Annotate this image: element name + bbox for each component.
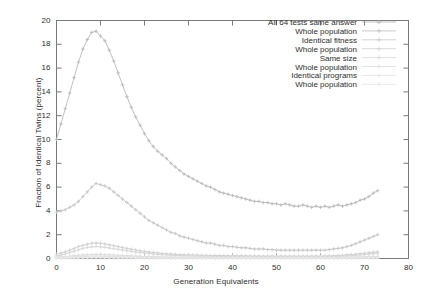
series-point-marker <box>94 245 98 249</box>
series-point-marker <box>350 202 354 206</box>
series-point-marker <box>257 247 261 251</box>
series-point-marker <box>235 245 239 249</box>
legend-label: Identical programs <box>187 71 357 80</box>
series-point-marker <box>248 247 252 251</box>
series-point-marker <box>235 195 239 199</box>
series-point-marker <box>323 248 327 252</box>
series-point-marker <box>81 47 85 51</box>
series-point-marker <box>328 248 332 252</box>
series-point-marker <box>275 248 279 252</box>
series-point-marker <box>59 122 63 126</box>
series-point-marker <box>64 208 68 212</box>
series-point-marker <box>134 250 138 254</box>
series-point-marker <box>72 249 76 253</box>
series-point-marker <box>86 246 90 250</box>
series-point-marker <box>292 248 296 252</box>
legend-label: Same size <box>187 54 357 63</box>
series-point-marker <box>209 185 213 189</box>
x-tick-label: 10 <box>88 263 114 272</box>
series-point-marker <box>310 248 314 252</box>
series-point-marker <box>270 248 274 252</box>
series-point-marker <box>213 188 217 192</box>
series-point-marker <box>332 247 336 251</box>
series-point-marker <box>354 201 358 205</box>
series-point-marker <box>134 115 138 119</box>
x-tick-label: 40 <box>220 263 246 272</box>
series-point-marker <box>222 191 226 195</box>
series-point-marker <box>345 203 349 207</box>
series-point-marker <box>314 248 318 252</box>
series-point-marker <box>138 123 142 127</box>
series-point-marker <box>275 202 279 206</box>
series-point-marker <box>152 221 156 225</box>
series-point-marker <box>77 60 81 64</box>
series-point-marker <box>376 233 380 237</box>
series-point-marker <box>323 204 327 208</box>
series-point-marker <box>121 248 125 252</box>
legend-label: Whole population <box>187 63 357 72</box>
series-point-marker <box>262 201 266 205</box>
x-tick-label: 70 <box>352 263 378 272</box>
series-point-marker <box>288 248 292 252</box>
series-point-marker <box>169 231 173 235</box>
series-point-marker <box>376 189 380 193</box>
series-point-marker <box>341 204 345 208</box>
series-point-marker <box>165 228 169 232</box>
series-point-marker <box>68 251 72 255</box>
series-point-marker <box>266 248 270 252</box>
series-point-marker <box>108 48 112 52</box>
series-point-marker <box>367 236 371 240</box>
series-point-marker <box>372 235 376 239</box>
series-point-marker <box>178 234 182 238</box>
series-point-marker <box>336 203 340 207</box>
series-point-marker <box>314 204 318 208</box>
series-point-marker <box>284 202 288 206</box>
series-point-marker <box>358 240 362 244</box>
series-point-marker <box>125 95 129 99</box>
series-point-marker <box>160 226 164 230</box>
series-point-marker <box>103 184 107 188</box>
series-point-marker <box>112 59 116 63</box>
series-point-marker <box>363 238 367 242</box>
series-point-marker <box>218 244 222 248</box>
series-point-marker <box>94 241 98 245</box>
legend-key-marker <box>377 82 381 86</box>
series-point-marker <box>332 204 336 208</box>
series-point-marker <box>103 242 107 246</box>
series-point-marker <box>270 202 274 206</box>
series-point-marker <box>213 242 217 246</box>
legend-label: Whole population <box>187 27 357 36</box>
series-point-marker <box>226 192 230 196</box>
series-point-marker <box>319 248 323 252</box>
series-point-marker <box>77 248 81 252</box>
series-point-marker <box>358 198 362 202</box>
series-point-marker <box>191 238 195 242</box>
series-point-marker <box>240 246 244 250</box>
series-point-marker <box>191 177 195 181</box>
series-point-marker <box>218 190 222 194</box>
legend-key-marker <box>377 73 381 77</box>
series-point-marker <box>231 245 235 249</box>
series-point-marker <box>196 179 200 183</box>
series-point-marker <box>108 246 112 250</box>
series-point-marker <box>68 91 72 95</box>
series-line <box>57 184 378 251</box>
series-point-marker <box>257 200 261 204</box>
series-point-marker <box>200 182 204 186</box>
series-point-marker <box>125 249 129 253</box>
series-point-marker <box>328 206 332 210</box>
series-point-marker <box>86 242 90 246</box>
y-tick-label: 0 <box>29 254 51 263</box>
series-point-marker <box>55 138 59 142</box>
legend-label: All 64 tests same answer <box>187 18 357 27</box>
legend-key-marker <box>377 38 381 42</box>
series-point-marker <box>306 204 310 208</box>
series-point-marker <box>297 204 301 208</box>
series-point-marker <box>306 248 310 252</box>
series-point-marker <box>81 247 85 251</box>
series-point-marker <box>231 194 235 198</box>
series-point-marker <box>187 175 191 179</box>
series-point-marker <box>253 247 257 251</box>
series-point-marker <box>204 241 208 245</box>
series-point-marker <box>301 203 305 207</box>
